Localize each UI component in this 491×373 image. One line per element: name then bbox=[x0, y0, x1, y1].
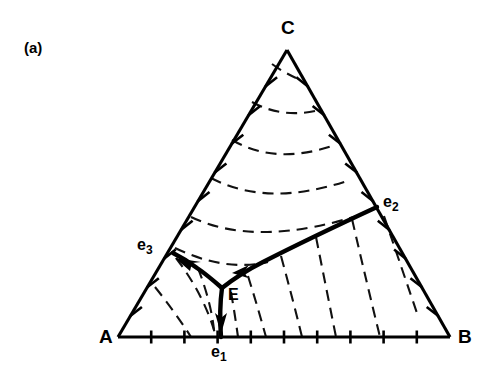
point-label-e2-base: e bbox=[383, 193, 392, 210]
point-label-e3-base: e bbox=[137, 236, 146, 253]
isotherm-b-4 bbox=[316, 237, 336, 337]
point-label-e3-subscript: 3 bbox=[146, 243, 153, 257]
isotherm-b-2 bbox=[248, 276, 266, 337]
point-label-e2: e2 bbox=[383, 194, 399, 210]
isotherm-b-3 bbox=[281, 256, 302, 337]
point-label-E: E bbox=[228, 287, 239, 303]
point-label-e2-subscript: 2 bbox=[392, 200, 399, 214]
triangle-edge-AC bbox=[118, 50, 287, 337]
point-label-e3: e3 bbox=[137, 237, 153, 253]
ternary-diagram-svg bbox=[0, 0, 491, 373]
isotherm-c-2 bbox=[252, 102, 315, 113]
isotherm-b-5 bbox=[352, 219, 380, 337]
vertex-label-b: B bbox=[458, 327, 472, 346]
triangle-edge-BC bbox=[287, 50, 450, 337]
point-label-e1-subscript: 1 bbox=[220, 350, 227, 364]
isotherms-c-field bbox=[175, 64, 366, 265]
point-label-e1: e1 bbox=[211, 344, 227, 360]
ternary-phase-diagram-figure: (a) C A B e1 e2 e3 E bbox=[0, 0, 491, 373]
isotherm-c-3 bbox=[232, 140, 332, 154]
isotherm-c-4 bbox=[211, 178, 350, 194]
vertex-label-c: C bbox=[281, 18, 295, 37]
isotherm-a-1 bbox=[155, 287, 191, 337]
vertex-label-a: A bbox=[99, 327, 113, 346]
point-label-e1-base: e bbox=[211, 343, 220, 360]
cotectic-boundary-curves bbox=[173, 207, 377, 337]
panel-label: (a) bbox=[24, 40, 42, 55]
isotherms-a-field bbox=[155, 258, 216, 337]
